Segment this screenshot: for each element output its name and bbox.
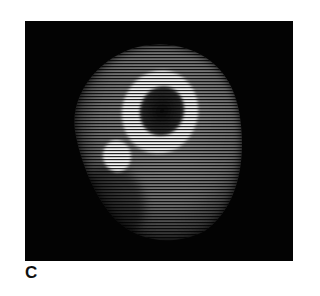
ct-scan-panel: [25, 21, 293, 261]
ct-scan-image: [25, 21, 293, 261]
panel-label: C: [25, 264, 37, 281]
